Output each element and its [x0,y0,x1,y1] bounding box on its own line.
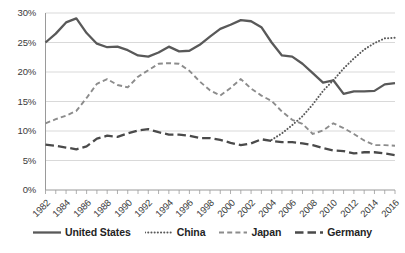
legend-swatch-solid [33,228,61,237]
legend-item-germany[interactable]: Germany [295,226,372,238]
legend-label: Japan [251,226,281,238]
legend-swatch-dotted [145,228,173,237]
legend-swatch-dashed [219,228,247,237]
legend-item-china[interactable]: China [145,226,206,238]
y-axis-tick-label: 20% [2,66,36,77]
y-axis-tick-label: 25% [2,37,36,48]
legend-label: China [177,226,206,238]
y-axis-tick-label: 10% [2,125,36,136]
legend-label: United States [65,226,131,238]
legend-item-japan[interactable]: Japan [219,226,281,238]
gridlines [46,13,396,190]
series-line-japan [46,63,396,146]
y-axis-tick-label: 30% [2,7,36,18]
y-axis-tick-label: 5% [2,155,36,166]
chart-container: 0%5%10%15%20%25%30% 19821984198619881990… [0,0,405,253]
y-axis-tick-label: 0% [2,184,36,195]
data-series-group [46,18,396,155]
series-line-germany [46,129,396,155]
y-axis-tick-label: 15% [2,96,36,107]
legend-label: Germany [327,226,372,238]
x-axis-ticks [46,190,396,194]
chart-legend: United StatesChinaJapanGermany [0,226,405,238]
legend-item-united-states[interactable]: United States [33,226,131,238]
legend-swatch-longdash [295,228,323,237]
